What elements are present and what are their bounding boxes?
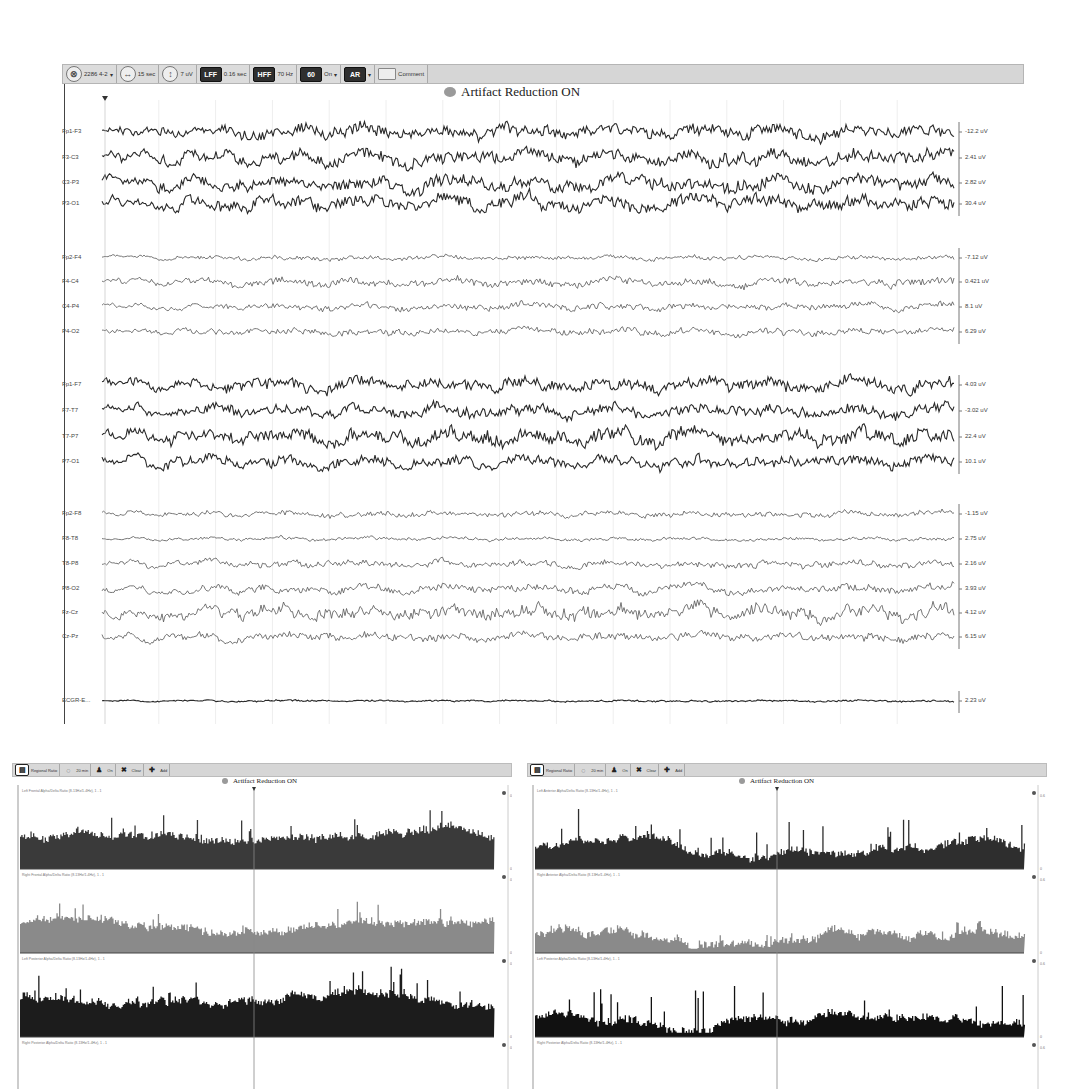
svg-text:0: 0 <box>510 867 512 871</box>
channel-label[interactable]: F3-C3 <box>62 154 79 160</box>
svg-text:Left Posterior Alpha/Delta Rat: Left Posterior Alpha/Delta Ratio (8-13Hz… <box>22 957 105 961</box>
trend-window-right: ▤ Regional Ratio ◌ 20 min ♟ On ✖ Clear ✚… <box>527 763 1047 1089</box>
channel-label[interactable]: Fz-Cz <box>62 609 78 615</box>
channel-scale-value: 3.93 uV <box>965 585 986 591</box>
svg-text:0.1: 0.1 <box>510 878 512 882</box>
svg-text:Right Frontal Alpha/Delta Rati: Right Frontal Alpha/Delta Ratio (8-13Hz/… <box>22 873 104 877</box>
svg-text:Left Anterior Alpha/Delta Rati: Left Anterior Alpha/Delta Ratio (8-13Hz/… <box>537 789 618 793</box>
svg-text:0.6: 0.6 <box>1040 794 1045 798</box>
channel-scale-value: 0.421 uV <box>965 278 989 284</box>
channel-label[interactable]: C4-P4 <box>62 303 79 309</box>
channel-label[interactable]: Cz-Pz <box>62 633 78 639</box>
eeg-review-window: ⊗ 2286 4-2 ▾ ↔ 15 sec ↕ 7 uV LFF 0.16 se… <box>62 64 1024 726</box>
trend-plot-left[interactable]: Left Frontal Alpha/Delta Ratio (8-13Hz/1… <box>12 763 512 1089</box>
channel-scale-value: 8.1 uV <box>965 303 982 309</box>
channel-scale-value: 2.16 uV <box>965 560 986 566</box>
svg-text:Right Anterior Alpha/Delta Rat: Right Anterior Alpha/Delta Ratio (8-13Hz… <box>537 873 620 877</box>
channel-scale-value: 6.15 uV <box>965 633 986 639</box>
eeg-waveform-plot[interactable] <box>62 64 1024 726</box>
svg-text:0: 0 <box>1040 951 1042 955</box>
channel-scale-value: 30.4 uV <box>965 200 986 206</box>
channel-label[interactable]: ECGR-E... <box>62 697 90 703</box>
channel-scale-value: 2.41 uV <box>965 154 986 160</box>
channel-label[interactable]: P7-O1 <box>62 458 79 464</box>
channel-scale-value: 10.1 uV <box>965 458 986 464</box>
channel-label[interactable]: Fp1-F7 <box>62 381 81 387</box>
channel-scale-value: 2.75 uV <box>965 535 986 541</box>
channel-label[interactable]: F4-C4 <box>62 278 79 284</box>
svg-text:Right Posterior Alpha/Delta Ra: Right Posterior Alpha/Delta Ratio (8-13H… <box>537 1041 622 1045</box>
svg-text:0.6: 0.6 <box>1040 962 1045 966</box>
channel-label[interactable]: C3-P3 <box>62 179 79 185</box>
channel-label[interactable]: T7-P7 <box>62 433 78 439</box>
svg-text:Left Frontal Alpha/Delta Ratio: Left Frontal Alpha/Delta Ratio (8-13Hz/1… <box>22 789 102 793</box>
svg-text:0: 0 <box>510 951 512 955</box>
svg-text:Right Posterior Alpha/Delta Ra: Right Posterior Alpha/Delta Ratio (8-13H… <box>22 1041 107 1045</box>
svg-text:0.1: 0.1 <box>510 1046 512 1050</box>
channel-label[interactable]: P4-O2 <box>62 328 79 334</box>
trend-plot-right[interactable]: Left Anterior Alpha/Delta Ratio (8-13Hz/… <box>527 763 1047 1089</box>
channel-scale-value: 6.29 uV <box>965 328 986 334</box>
channel-label[interactable]: Fp2-F8 <box>62 510 81 516</box>
trend-window-left: ▤ Regional Ratio ◌ 20 min ♟ On ✖ Clear ✚… <box>12 763 512 1089</box>
channel-label[interactable]: P8-O2 <box>62 585 79 591</box>
channel-scale-value: -1.15 uV <box>965 510 988 516</box>
svg-text:0.1: 0.1 <box>510 962 512 966</box>
svg-text:0: 0 <box>1040 1035 1042 1039</box>
svg-text:Left Posterior Alpha/Delta Rat: Left Posterior Alpha/Delta Ratio (8-13Hz… <box>537 957 620 961</box>
svg-text:0: 0 <box>1040 867 1042 871</box>
channel-scale-value: 4.03 uV <box>965 381 986 387</box>
svg-text:0.6: 0.6 <box>1040 1046 1045 1050</box>
svg-text:0.6: 0.6 <box>1040 878 1045 882</box>
channel-label[interactable]: Fp2-F4 <box>62 254 81 260</box>
channel-scale-value: 22.4 uV <box>965 433 986 439</box>
channel-label[interactable]: F7-T7 <box>62 407 78 413</box>
channel-scale-value: 2.82 uV <box>965 179 986 185</box>
channel-scale-value: -12.2 uV <box>965 128 988 134</box>
channel-label[interactable]: F8-T8 <box>62 535 78 541</box>
channel-scale-value: 2.23 uV <box>965 697 986 703</box>
svg-text:0: 0 <box>510 1035 512 1039</box>
svg-text:0.1: 0.1 <box>510 794 512 798</box>
channel-label[interactable]: P3-O1 <box>62 200 79 206</box>
channel-scale-value: -3.02 uV <box>965 407 988 413</box>
channel-label[interactable]: Fp1-F3 <box>62 128 81 134</box>
channel-scale-value: 4.12 uV <box>965 609 986 615</box>
channel-label[interactable]: T8-P8 <box>62 560 78 566</box>
channel-scale-value: -7.12 uV <box>965 254 988 260</box>
